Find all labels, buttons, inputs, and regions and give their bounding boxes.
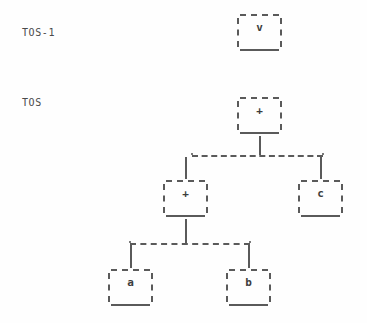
bus-upper-right-corner-icon bbox=[322, 153, 324, 155]
tree-node-b[interactable]: b bbox=[226, 269, 271, 306]
connector-to-c bbox=[320, 157, 322, 179]
tree-node-a[interactable]: a bbox=[108, 269, 153, 306]
connector-bus-upper bbox=[192, 155, 323, 157]
tree-node-label: c bbox=[298, 187, 343, 200]
node-border-top-icon bbox=[240, 14, 279, 16]
node-border-top-icon bbox=[301, 180, 340, 182]
tree-node-v[interactable]: v bbox=[237, 14, 282, 51]
node-border-bottom-icon bbox=[301, 215, 340, 217]
node-border-bottom-icon bbox=[229, 304, 268, 306]
tree-node-label: b bbox=[226, 276, 271, 289]
node-border-bottom-icon bbox=[240, 49, 279, 51]
row-label-tos-1: TOS-1 bbox=[22, 27, 55, 38]
node-border-top-icon bbox=[111, 269, 150, 271]
node-border-top-icon bbox=[240, 97, 279, 99]
bus-lower-right-corner-icon bbox=[249, 241, 251, 243]
row-label-tos: TOS bbox=[22, 97, 42, 108]
connector-to-plus-mid bbox=[185, 157, 187, 179]
tree-node-plus-root[interactable]: + bbox=[237, 97, 282, 134]
tree-node-c[interactable]: c bbox=[298, 180, 343, 217]
node-border-top-icon bbox=[229, 269, 268, 271]
tree-node-label: + bbox=[163, 187, 208, 200]
node-border-top-icon bbox=[166, 180, 205, 182]
node-border-bottom-icon bbox=[111, 304, 150, 306]
tree-node-plus-mid[interactable]: + bbox=[163, 180, 208, 217]
node-border-bottom-icon bbox=[240, 132, 279, 134]
tree-node-label: v bbox=[237, 21, 282, 34]
connector-to-a bbox=[130, 245, 132, 268]
bus-lower-left-corner-icon bbox=[129, 241, 131, 243]
diagram-canvas: TOS-1 TOS v + + c bbox=[0, 0, 367, 323]
bus-upper-left-corner-icon bbox=[191, 153, 193, 155]
connector-root-stem bbox=[259, 136, 261, 155]
tree-node-label: a bbox=[108, 276, 153, 289]
node-border-bottom-icon bbox=[166, 215, 205, 217]
connector-bus-lower bbox=[130, 243, 250, 245]
connector-to-b bbox=[248, 245, 250, 268]
tree-node-label: + bbox=[237, 104, 282, 117]
connector-mid-stem bbox=[185, 219, 187, 243]
